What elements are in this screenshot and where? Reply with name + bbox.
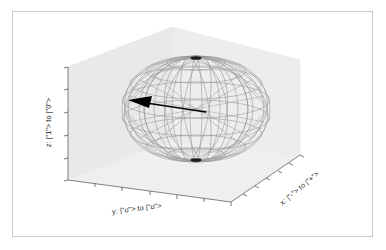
bloch-sphere-figure: z: |"1"> to |"0"> y: |"ʊ"> to |"ʊ"> x: |… (0, 0, 386, 250)
z-axis-label: z: |"1"> to |"0"> (44, 63, 53, 183)
south-pole-marker (191, 158, 202, 162)
north-pole-marker (191, 56, 202, 60)
z-axis-ticks (64, 67, 68, 181)
axes-3d-canvas (0, 0, 386, 250)
